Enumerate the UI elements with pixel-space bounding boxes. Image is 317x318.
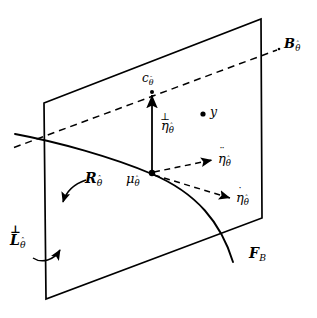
label-mu: μ ˆ θ [126, 172, 140, 187]
bundle-line-endpoint-dot [278, 48, 281, 51]
fiber-curve [15, 134, 233, 262]
hat-accent-icon: ˆ [135, 176, 138, 183]
vector-eta-ddot [154, 160, 212, 172]
label-level-L: ⊥ L ˆ θ [10, 233, 26, 249]
label-eta-perp: ⊥ η ˆ θ [161, 119, 174, 134]
label-region-R: R ˆ θ [85, 171, 102, 187]
perp-accent-icon: ⊥ [10, 225, 21, 236]
point-mu-marker [149, 170, 155, 176]
label-mu-base: μ [126, 171, 134, 186]
label-fiber-F: FB [249, 246, 266, 262]
label-fiber-F-base: F [249, 245, 259, 261]
label-fiber-F-sub: B [259, 252, 266, 263]
perp-accent-icon: ⊥ [160, 112, 170, 122]
vector-eta-dot [154, 175, 230, 198]
hat-accent-icon: ˆ [21, 237, 25, 244]
curved-arrow-L [33, 250, 60, 261]
label-center-base: c [142, 71, 149, 85]
hat-accent-icon: ˆ [98, 175, 102, 182]
point-c-marker [150, 90, 154, 94]
dot-accent-icon: ˙ [237, 187, 242, 198]
hat-accent-icon: ˆ [170, 123, 173, 130]
diagram-vector-graphics [0, 0, 317, 318]
hat-accent-icon: ˆ [245, 195, 248, 202]
label-eta-ddot: ¨ η ˆ θ [218, 152, 231, 167]
curved-arrow-R [63, 180, 86, 202]
diagram-canvas: B ˆ θ c ˆ θ y ⊥ η ˆ θ ¨ η ˆ θ [0, 0, 317, 318]
label-center-c: c ˆ θ [142, 72, 154, 86]
label-bundle-B: B ˆ θ [284, 37, 300, 52]
label-eta-dot: ˙ η ˆ θ [236, 191, 249, 206]
hat-accent-icon: ˆ [227, 156, 230, 163]
double-dot-accent-icon: ¨ [219, 147, 224, 158]
label-bundle-base: B [284, 37, 295, 50]
label-region-R-base: R [85, 170, 97, 186]
hat-accent-icon: ˆ [150, 76, 153, 82]
hat-accent-icon: ˆ [296, 41, 299, 48]
point-y-marker [200, 111, 205, 116]
label-point-y: y [210, 106, 217, 119]
